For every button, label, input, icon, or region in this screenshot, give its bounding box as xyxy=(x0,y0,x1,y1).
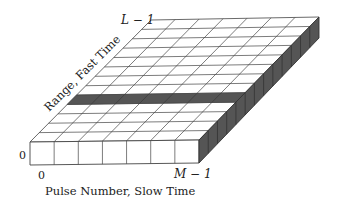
front-face-fill xyxy=(30,140,199,165)
data-cube-diagram: L − 1 0 0 M − 1 Pulse Number, Slow Time … xyxy=(0,0,340,200)
pulse-axis-label: Pulse Number, Slow Time xyxy=(45,184,196,198)
range-max-label: L − 1 xyxy=(120,13,154,27)
range-min-label: 0 xyxy=(19,149,26,162)
pulse-min-label: 0 xyxy=(38,169,45,182)
front-face xyxy=(30,140,199,165)
pulse-max-label: M − 1 xyxy=(173,167,212,181)
